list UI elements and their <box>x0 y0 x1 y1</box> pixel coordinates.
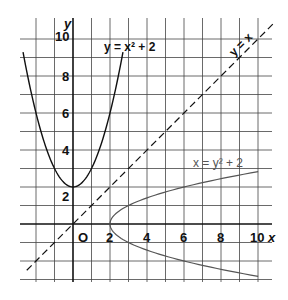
x-axis-label: x <box>267 230 276 245</box>
y-tick-label: 10 <box>55 29 69 44</box>
x-tick-label: 2 <box>106 230 113 245</box>
x-tick-label: 4 <box>143 230 151 245</box>
y-tick-label: 6 <box>62 106 69 121</box>
y-tick-label: 8 <box>62 69 69 84</box>
sideways-parabola-label: x = y² + 2 <box>193 156 243 170</box>
origin-label: O <box>78 230 88 245</box>
y-tick-label: 2 <box>62 189 69 204</box>
y-tick-label: 4 <box>62 143 70 158</box>
graph-plot: 246810x246810yOy = x² + 2y = xx = y² + 2 <box>0 0 288 300</box>
x-tick-label: 8 <box>217 230 224 245</box>
x-tick-label: 10 <box>250 230 264 245</box>
y-axis-label: y <box>63 16 72 31</box>
parabola-label: y = x² + 2 <box>104 40 156 54</box>
line-label: y = x <box>226 30 255 59</box>
x-tick-label: 6 <box>180 230 187 245</box>
